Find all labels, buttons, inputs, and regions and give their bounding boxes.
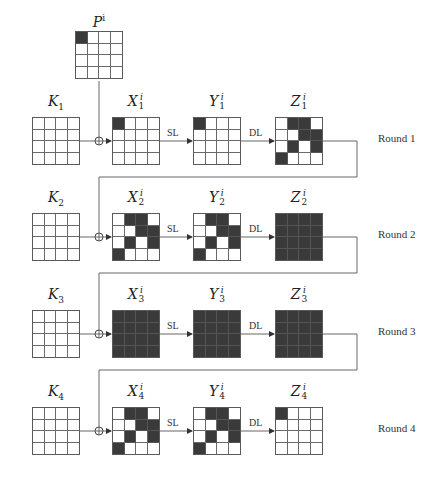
cell-inactive	[288, 443, 300, 455]
cell-inactive	[276, 141, 288, 153]
cell-active	[136, 408, 148, 420]
cell-inactive	[125, 118, 137, 130]
cell-inactive	[33, 237, 45, 249]
cell-active	[299, 311, 311, 323]
cell-inactive	[45, 237, 57, 249]
cell-active	[229, 346, 241, 358]
cell-active	[276, 226, 288, 238]
cell-inactive	[45, 311, 57, 323]
cell-inactive	[136, 118, 148, 130]
round-4-z-grid	[275, 407, 323, 455]
cell-active	[206, 334, 218, 346]
cell-inactive	[68, 323, 80, 335]
diffusion-layer-label: DL	[249, 320, 262, 331]
cell-inactive	[68, 431, 80, 443]
cell-active	[276, 153, 288, 165]
cell-inactive	[45, 141, 57, 153]
round-3-y-label: Yi3	[193, 284, 241, 304]
cell-inactive	[229, 141, 241, 153]
cell-inactive	[56, 214, 68, 226]
cell-active	[299, 226, 311, 238]
cell-inactive	[45, 118, 57, 130]
cell-inactive	[311, 153, 323, 165]
cell-active	[76, 32, 88, 44]
cell-inactive	[99, 44, 111, 56]
cell-inactive	[33, 334, 45, 346]
cell-active	[125, 214, 137, 226]
cell-active	[125, 237, 137, 249]
cell-inactive	[288, 408, 300, 420]
cell-inactive	[194, 226, 206, 238]
cell-inactive	[299, 420, 311, 432]
cell-inactive	[68, 311, 80, 323]
cell-active	[136, 214, 148, 226]
cell-inactive	[45, 346, 57, 358]
cell-inactive	[194, 130, 206, 142]
round-1-x-label: Xi1	[112, 91, 160, 111]
cell-active	[311, 130, 323, 142]
shift-layer-label: SL	[167, 320, 179, 331]
cell-active	[217, 323, 229, 335]
cell-inactive	[276, 431, 288, 443]
cell-inactive	[33, 153, 45, 165]
cell-inactive	[33, 408, 45, 420]
cell-inactive	[56, 408, 68, 420]
cell-inactive	[45, 130, 57, 142]
cell-inactive	[311, 408, 323, 420]
cell-inactive	[136, 237, 148, 249]
cell-active	[311, 311, 323, 323]
cell-inactive	[56, 153, 68, 165]
cell-inactive	[68, 408, 80, 420]
round-2-y-grid	[193, 213, 241, 261]
cell-inactive	[206, 153, 218, 165]
round-3-y-grid	[193, 310, 241, 358]
cell-inactive	[229, 153, 241, 165]
cell-active	[113, 249, 125, 261]
cell-inactive	[206, 141, 218, 153]
cell-inactive	[217, 237, 229, 249]
cell-inactive	[45, 226, 57, 238]
cell-active	[229, 420, 241, 432]
cell-inactive	[33, 118, 45, 130]
cell-active	[229, 226, 241, 238]
cell-inactive	[111, 55, 123, 67]
cell-active	[136, 311, 148, 323]
diffusion-layer-label: DL	[249, 127, 262, 138]
cell-active	[311, 323, 323, 335]
cell-active	[288, 214, 300, 226]
round-4-z-label: Zi4	[275, 381, 323, 401]
round-1-z-label: Zi1	[275, 91, 323, 111]
cell-inactive	[68, 443, 80, 455]
cell-active	[276, 249, 288, 261]
cell-active	[194, 443, 206, 455]
cell-active	[276, 311, 288, 323]
cell-active	[194, 346, 206, 358]
cell-inactive	[99, 55, 111, 67]
cell-inactive	[33, 226, 45, 238]
cell-inactive	[68, 141, 80, 153]
round-1-key-grid	[32, 117, 80, 165]
cell-inactive	[88, 55, 100, 67]
cell-inactive	[194, 431, 206, 443]
cell-inactive	[68, 346, 80, 358]
cell-inactive	[111, 44, 123, 56]
cell-inactive	[56, 118, 68, 130]
cell-active	[217, 420, 229, 432]
cell-inactive	[113, 431, 125, 443]
round-4-y-grid	[193, 407, 241, 455]
cell-inactive	[136, 153, 148, 165]
round-1-y-grid	[193, 117, 241, 165]
round-3-x-grid	[112, 310, 160, 358]
cell-inactive	[194, 153, 206, 165]
cell-active	[206, 214, 218, 226]
cell-active	[276, 346, 288, 358]
cell-inactive	[299, 431, 311, 443]
cell-active	[113, 443, 125, 455]
round-3-z-grid	[275, 310, 323, 358]
round-3-z-label: Zi3	[275, 284, 323, 304]
cell-active	[194, 118, 206, 130]
cell-inactive	[113, 408, 125, 420]
cell-active	[136, 226, 148, 238]
cell-active	[288, 237, 300, 249]
round-label: Round 3	[378, 325, 416, 337]
